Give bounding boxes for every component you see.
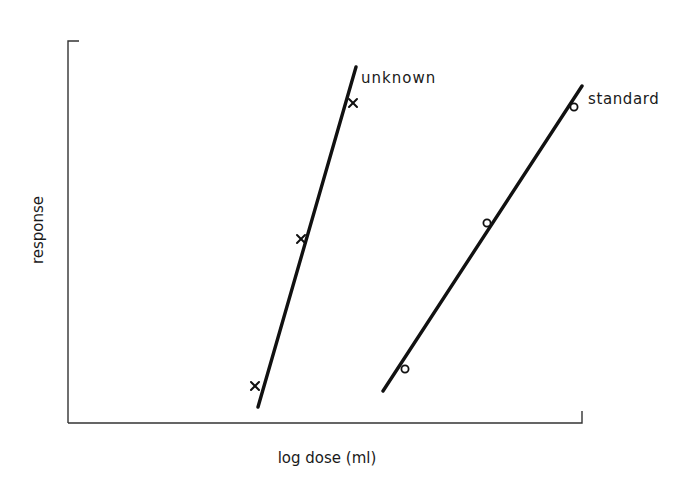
unknown-fit-line [258,67,356,407]
standard-marker-o [483,219,490,226]
standard-marker-o [401,365,408,372]
x-axis [68,411,582,423]
y-axis [68,41,79,423]
x-axis-label: log dose (ml) [278,449,377,467]
series-unknown: unknown [251,67,436,407]
series-standard: standard [383,86,659,391]
standard-marker-o [570,103,577,110]
unknown-marker-x [297,235,305,243]
unknown-marker-x [251,382,259,390]
unknown-marker-x [349,99,357,107]
standard-label: standard [588,90,659,108]
standard-fit-line [383,86,582,391]
y-axis-label: response [29,196,47,264]
dose-response-chart: unknown standard log dose (ml) response [0,0,694,483]
unknown-label: unknown [361,69,436,87]
axes [68,41,582,423]
